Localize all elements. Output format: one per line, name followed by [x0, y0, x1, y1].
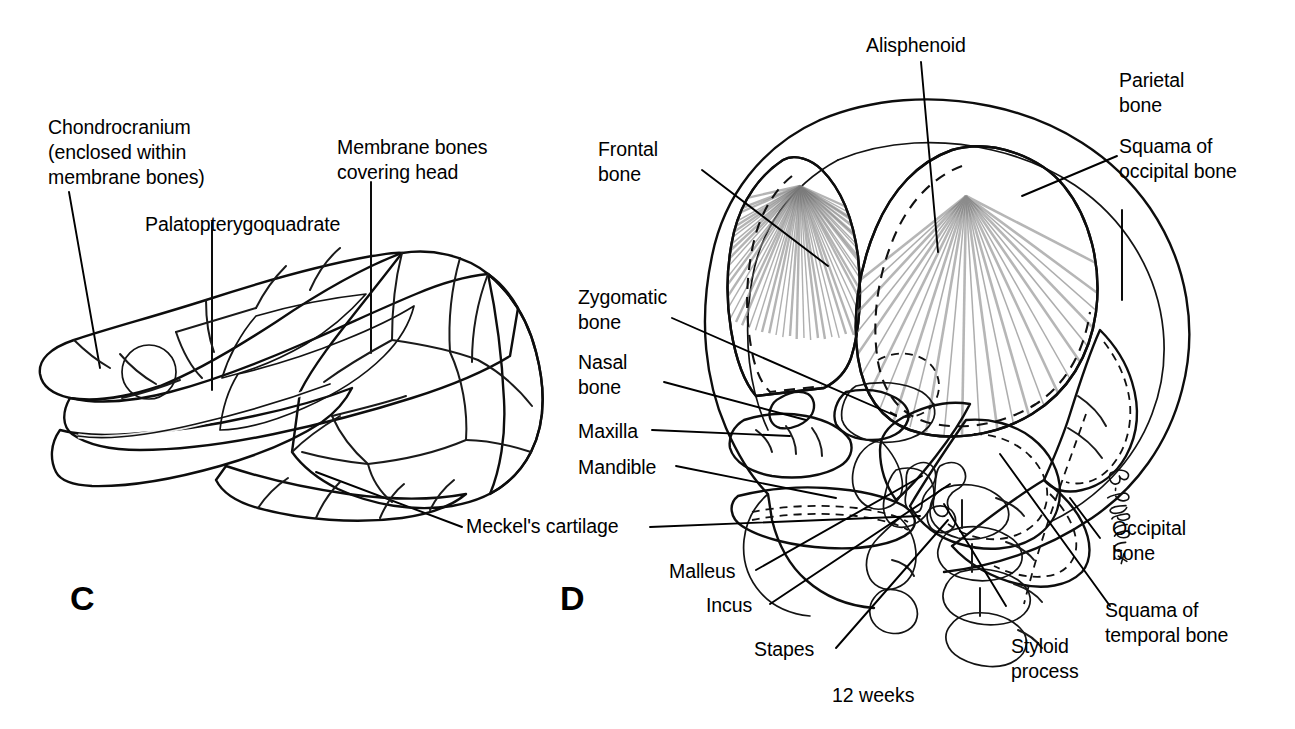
label-malleus: Malleus — [669, 559, 736, 584]
label-occipital-bone: Occipital bone — [1112, 516, 1186, 566]
label-nasal-bone: Nasal bone — [578, 350, 627, 400]
panel-c-occipital-plate — [488, 274, 543, 494]
panel-letter-c: C — [70, 581, 95, 615]
label-membrane-bones-covering-head: Membrane bones covering head — [337, 135, 487, 185]
panel-d-maxilla — [730, 414, 852, 478]
anatomical-figure: Chondrocranium (enclosed within membrane… — [0, 0, 1295, 729]
panel-d-chin-contour — [744, 494, 810, 616]
leader-stapes — [836, 520, 948, 648]
panel-d-parietal-bone — [820, 146, 1152, 436]
panel-letter-d: D — [560, 581, 585, 615]
label-zygomatic-bone: Zygomatic bone — [578, 285, 667, 335]
leader-chondrocranium — [69, 192, 100, 368]
label-maxilla: Maxilla — [578, 419, 638, 444]
label-frontal-bone: Frontal bone — [598, 137, 658, 187]
panel-d-styloid-process — [866, 518, 916, 589]
panel-d-mandible — [732, 468, 934, 548]
panel-d-hyoid — [870, 590, 918, 634]
leader-meckels-cartilage-d — [650, 516, 920, 527]
figure-illustration — [0, 0, 1295, 729]
panel-d-frontal-bone — [648, 157, 952, 396]
label-parietal-bone: Parietal bone — [1119, 68, 1184, 118]
label-mandible: Mandible — [578, 455, 656, 480]
figure-caption-age: 12 weeks — [832, 684, 914, 706]
label-palatopterygoquadrate: Palatopterygoquadrate — [145, 212, 340, 237]
panel-d-squama-occipital — [1044, 330, 1137, 492]
panel-d-nasal-bone — [769, 392, 814, 428]
panel-d-fontanelle-dashed — [878, 354, 939, 417]
label-styloid-process: Styloid process — [1011, 634, 1079, 684]
label-meckels-cartilage: Meckel's cartilage — [466, 514, 619, 539]
leader-styloid-process — [944, 504, 1006, 606]
label-incus: Incus — [706, 593, 752, 618]
leader-maxilla — [652, 430, 790, 436]
panel-d-maxilla-detail — [756, 426, 822, 456]
label-chondrocranium: Chondrocranium (enclosed within membrane… — [48, 115, 205, 190]
label-stapes: Stapes — [754, 637, 814, 662]
label-alisphenoid: Alisphenoid — [866, 33, 966, 58]
label-squama-of-temporal-bone: Squama of temporal bone — [1105, 598, 1228, 648]
panel-c-lower-jaw-plates — [216, 466, 466, 521]
panel-c-orbit-fossa — [222, 294, 366, 378]
panel-c-sutures — [74, 248, 532, 518]
leader-nasal-bone — [664, 382, 806, 420]
label-squama-of-occipital-bone: Squama of occipital bone — [1119, 134, 1237, 184]
panel-c-midface — [64, 274, 518, 450]
